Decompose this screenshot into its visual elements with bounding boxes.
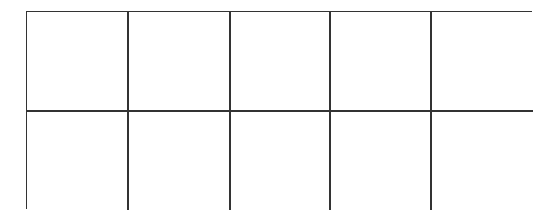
- grid-cell: [331, 12, 432, 112]
- grid-cell: [27, 112, 129, 210]
- grid-cell: [331, 112, 432, 210]
- grid-cell: [231, 12, 331, 112]
- grid-cell: [129, 112, 231, 210]
- ten-frame-grid: [26, 11, 532, 209]
- grid-cell: [432, 112, 533, 210]
- grid-cell: [231, 112, 331, 210]
- grid-cell: [129, 12, 231, 112]
- grid-cell: [27, 12, 129, 112]
- grid-cell: [432, 12, 533, 112]
